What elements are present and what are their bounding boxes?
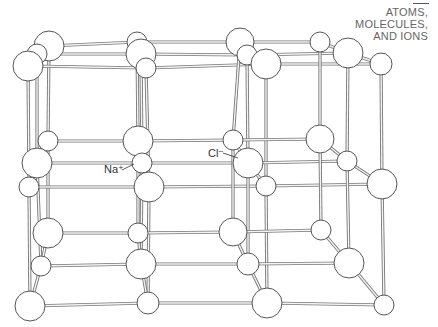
sodium-ion — [311, 220, 331, 240]
chloride-ion — [333, 38, 363, 68]
sodium-ion — [337, 151, 357, 171]
chloride-ion — [252, 288, 282, 318]
chloride-ion — [334, 248, 364, 278]
sodium-ion — [137, 292, 159, 314]
chloride-ion — [13, 51, 43, 81]
sodium-ion — [237, 253, 259, 275]
sodium-ion — [19, 177, 39, 197]
chloride-ion — [306, 125, 334, 153]
chloride-ion — [134, 172, 164, 202]
sodium-ion — [128, 223, 148, 243]
bond-rod — [347, 53, 348, 161]
bond-rod — [266, 186, 267, 303]
sodium-ion — [370, 53, 392, 75]
sodium-ion-label: Na⁺ — [104, 163, 124, 176]
chloride-ion — [15, 291, 45, 321]
bond-rod — [381, 64, 382, 184]
sodium-ion — [38, 131, 58, 151]
sodium-ion — [136, 58, 156, 78]
chloride-ion — [33, 218, 63, 248]
lattice-ions — [13, 28, 397, 321]
nacl-lattice-diagram — [0, 0, 438, 327]
sodium-ion — [310, 32, 330, 52]
bond-rod — [141, 54, 247, 55]
chloride-ion — [22, 148, 52, 178]
sodium-ion — [374, 295, 394, 315]
chloride-ion — [123, 126, 153, 156]
chloride-ion-label: Cl⁻ — [208, 147, 224, 160]
lattice-bonds — [28, 42, 384, 306]
chloride-ion — [126, 249, 156, 279]
sodium-ion — [31, 256, 51, 276]
bond-rod — [148, 187, 149, 303]
sodium-ion — [256, 176, 276, 196]
bond-rod — [29, 187, 30, 306]
bond-rod — [247, 55, 248, 163]
chloride-ion — [367, 169, 397, 199]
chloride-ion — [251, 49, 281, 79]
sodium-ion — [223, 130, 243, 150]
chloride-ion — [219, 218, 247, 246]
chloride-ion — [233, 148, 263, 178]
sodium-ion — [132, 153, 152, 173]
